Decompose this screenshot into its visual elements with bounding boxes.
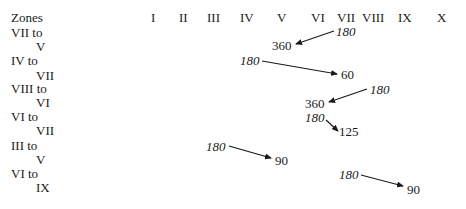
start-value: 180 bbox=[206, 140, 226, 153]
end-value: 125 bbox=[339, 125, 359, 138]
end-value: 90 bbox=[275, 154, 288, 167]
column-header-iii: III bbox=[207, 11, 220, 24]
row-from-label: VI to bbox=[11, 167, 38, 180]
column-header-ix: IX bbox=[398, 11, 412, 24]
row-to-label: VI bbox=[36, 96, 50, 109]
arrow-icon bbox=[229, 146, 271, 158]
column-header-vi: VI bbox=[311, 11, 325, 24]
row-from-label: VI to bbox=[11, 110, 38, 123]
column-header-v: V bbox=[277, 11, 286, 24]
row-from-label: VIII to bbox=[11, 82, 47, 95]
end-value: 90 bbox=[407, 183, 420, 196]
arrow-icon bbox=[296, 31, 334, 44]
arrow-icon bbox=[361, 175, 403, 186]
row-from-label: III to bbox=[11, 139, 37, 152]
end-value: 360 bbox=[272, 39, 292, 52]
column-header-ii: II bbox=[179, 11, 188, 24]
row-to-label: V bbox=[36, 40, 45, 53]
arrow-icon bbox=[329, 89, 367, 102]
column-header-x: X bbox=[437, 11, 446, 24]
row-from-label: IV to bbox=[11, 54, 38, 67]
column-header-iv: IV bbox=[240, 11, 254, 24]
start-value: 180 bbox=[336, 25, 356, 38]
column-header-vii: VII bbox=[337, 11, 355, 24]
arrow-icon bbox=[326, 120, 338, 131]
end-value: 60 bbox=[341, 68, 354, 81]
row-to-label: VII bbox=[36, 124, 54, 137]
arrow-icon bbox=[262, 61, 337, 74]
zones-header-label: Zones bbox=[11, 11, 43, 24]
row-to-label: V bbox=[36, 153, 45, 166]
row-to-label: IX bbox=[36, 181, 50, 194]
end-value: 360 bbox=[305, 97, 325, 110]
start-value: 180 bbox=[305, 111, 325, 124]
column-header-viii: VIII bbox=[362, 11, 384, 24]
column-header-i: I bbox=[151, 11, 155, 24]
start-value: 180 bbox=[240, 54, 260, 67]
start-value: 180 bbox=[370, 83, 390, 96]
transition-arrows bbox=[0, 0, 466, 209]
start-value: 180 bbox=[339, 168, 359, 181]
row-from-label: VII to bbox=[11, 26, 42, 39]
